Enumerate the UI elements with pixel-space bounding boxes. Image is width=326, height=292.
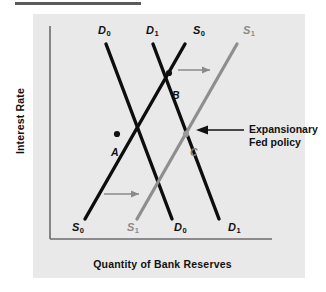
policy-callout-arrow <box>196 126 244 135</box>
x-axis-label: Quantity of Bank Reserves <box>50 258 275 270</box>
curve-label-d1-top: D1 <box>146 25 158 36</box>
point-label-b: B <box>172 90 180 101</box>
curve-label-s1-bottom: S1 <box>127 222 139 233</box>
point-marker-c <box>183 131 189 137</box>
policy-annotation-line2: Fed policy <box>249 136 318 149</box>
curve-label-s0-bottom: S0 <box>72 222 84 233</box>
supply-demand-figure: Interest Rate Quantity of Bank Reserves … <box>0 0 326 292</box>
policy-annotation: Expansionary Fed policy <box>249 123 318 148</box>
supply-shift-arrow-upper <box>178 67 210 74</box>
y-axis-label: Interest Rate <box>14 71 26 171</box>
point-marker-b <box>166 70 172 76</box>
curve-label-s0-top: S0 <box>193 25 205 36</box>
point-marker-a <box>114 131 120 137</box>
point-label-a: A <box>111 147 119 158</box>
curve-label-d1-bottom: D1 <box>228 222 240 233</box>
supply-shift-arrow-lower <box>104 191 139 198</box>
curve-label-d0-bottom: D0 <box>174 222 186 233</box>
policy-annotation-line1: Expansionary <box>249 123 318 136</box>
curve-label-d0-top: D0 <box>98 25 110 36</box>
point-label-c: C <box>190 147 198 158</box>
curve-label-s1-top: S1 <box>243 25 255 36</box>
